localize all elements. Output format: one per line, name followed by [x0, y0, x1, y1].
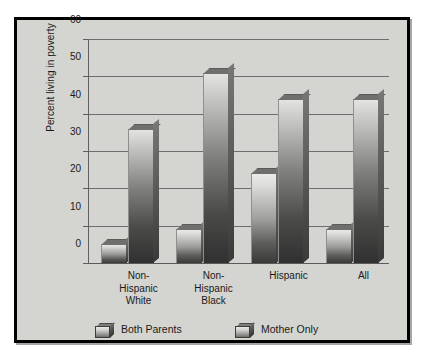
category-label-line: Hispanic — [251, 270, 327, 283]
y-axis-tick-label: 0 — [55, 239, 81, 249]
legend-item-both-parents[interactable]: Both Parents — [95, 320, 182, 338]
bar-mother-only[interactable] — [203, 73, 229, 263]
category-label: Hispanic — [251, 270, 327, 283]
y-axis-tick-label: 50 — [55, 52, 81, 62]
legend-swatch-face-face — [235, 326, 250, 338]
category-label: Non-HispanicWhite — [101, 270, 177, 308]
y-axis-tick-label: 20 — [55, 164, 81, 174]
y-axis-tick-mark — [83, 263, 89, 264]
bar-side-face — [153, 119, 159, 263]
gridline — [89, 114, 389, 115]
bar-both-parents[interactable] — [251, 173, 277, 263]
category-label-line: Non- — [101, 270, 177, 283]
category-label-line: Hispanic — [101, 283, 177, 296]
legend-item-mother-only[interactable]: Mother Only — [235, 320, 318, 338]
bar-both-parents[interactable] — [101, 244, 127, 263]
legend-swatch-face-face — [95, 326, 110, 338]
category-label-line: Hispanic — [176, 283, 252, 296]
legend-swatch-icon — [95, 323, 114, 338]
bar-mother-only[interactable] — [278, 99, 304, 263]
category-label-line: Black — [176, 295, 252, 308]
y-axis-tick-labels: 6050403020100 — [45, 20, 81, 340]
category-label: Non-HispanicBlack — [176, 270, 252, 308]
y-axis-tick-label: 60 — [55, 15, 81, 25]
bar-side-face — [228, 63, 234, 263]
y-axis-tick-mark — [83, 226, 89, 227]
category-label-line: Non- — [176, 270, 252, 283]
legend-swatch-side-face — [250, 322, 254, 338]
y-axis-tick-mark — [83, 114, 89, 115]
bar-mother-only[interactable] — [128, 129, 154, 263]
bar-both-parents[interactable] — [176, 229, 202, 263]
y-axis-tick-mark — [83, 39, 89, 40]
y-axis-tick-mark — [83, 188, 89, 189]
category-label-line: White — [101, 295, 177, 308]
x-axis-category-labels: Non-HispanicWhiteNon-HispanicBlackHispan… — [89, 270, 389, 318]
chart-frame: Percent living in poverty 6050403020100 … — [14, 17, 410, 343]
gridline — [89, 39, 389, 40]
legend-swatch-icon — [235, 323, 254, 338]
legend-label: Both Parents — [121, 323, 182, 335]
legend-swatch-side-face — [110, 322, 114, 338]
category-label-line: All — [326, 270, 402, 283]
y-axis-tick-label: 40 — [55, 90, 81, 100]
bar-mother-only[interactable] — [353, 99, 379, 263]
y-axis-tick-label: 30 — [55, 127, 81, 137]
plot-area — [89, 39, 389, 263]
bar-side-face — [303, 89, 309, 263]
y-axis-tick-mark — [83, 151, 89, 152]
bar-side-face — [378, 89, 384, 263]
y-axis-tick-mark — [83, 76, 89, 77]
gridline — [89, 263, 389, 264]
bar-both-parents[interactable] — [326, 229, 352, 263]
gridline — [89, 76, 389, 77]
y-axis-tick-label: 10 — [55, 202, 81, 212]
legend-label: Mother Only — [261, 323, 318, 335]
category-label: All — [326, 270, 402, 283]
